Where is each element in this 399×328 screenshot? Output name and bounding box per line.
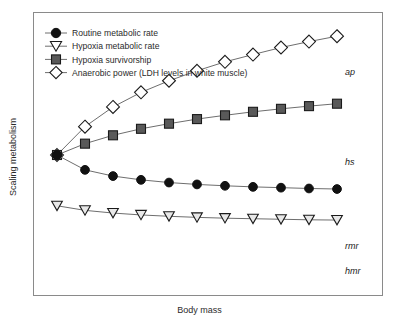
data-point [305,102,314,111]
y-axis-label: Scaling metabolism [8,97,18,217]
data-point [81,165,90,174]
x-axis-label: Body mass [0,305,399,315]
series-label-rmr: rmr [345,241,359,251]
series-label-hmr: hmr [345,266,362,276]
data-point [193,180,202,189]
data-point [165,119,174,128]
series-label-hs: hs [345,157,355,167]
legend-item-hs[interactable]: Hypoxia survivorship [45,55,152,65]
data-point [221,181,230,190]
data-point [333,99,342,108]
legend-label: Anaerobic power (LDH levels in white mus… [72,68,247,78]
data-point [137,175,146,184]
data-point [53,151,62,160]
data-point [81,139,90,148]
data-point [333,185,342,194]
data-point [305,184,314,193]
data-point [249,182,258,191]
legend-label: Hypoxia metabolic rate [72,41,160,51]
data-point [249,107,258,116]
legend-item-ap[interactable]: Anaerobic power (LDH levels in white mus… [45,66,247,78]
data-point [109,172,118,181]
circle-filled-icon [51,28,60,37]
square-filled-icon [52,55,61,64]
data-point [137,124,146,133]
data-point [277,104,286,113]
chart-canvas: ap hs rmr hmr Routine metabolic rateHypo… [0,0,399,328]
data-point [109,131,118,140]
legend-label: Routine metabolic rate [72,28,158,38]
legend-label: Hypoxia survivorship [72,55,152,65]
data-point [165,178,174,187]
figure-container: ap hs rmr hmr Routine metabolic rateHypo… [0,0,399,328]
series-label-ap: ap [345,67,355,77]
data-point [193,115,202,124]
data-point [221,111,230,120]
data-point [277,183,286,192]
